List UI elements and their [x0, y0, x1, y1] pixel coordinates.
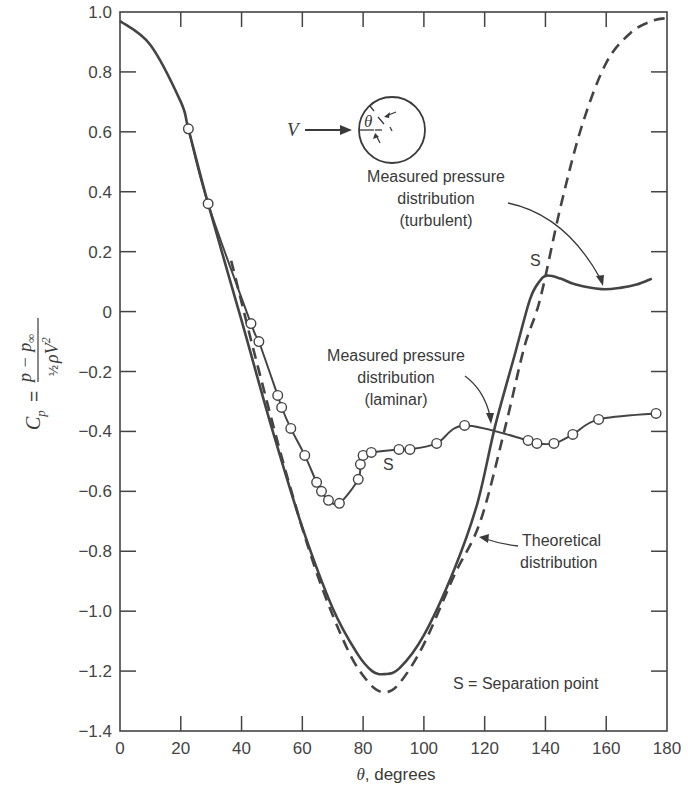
y-tick-label: −1.2 [78, 662, 112, 681]
data-point-marker [317, 487, 327, 497]
y-tick-label: −0.6 [78, 482, 112, 501]
y-tick-label: 0 [103, 303, 112, 322]
x-tick-label: 0 [115, 739, 124, 758]
pressure-distribution-chart: 1.00.80.60.40.20−0.2−0.4−0.6−0.8−1.0−1.2… [0, 0, 688, 794]
svg-text:(turbulent): (turbulent) [400, 212, 473, 229]
theta-label: θ [364, 112, 372, 131]
y-tick-label: −0.8 [78, 542, 112, 561]
data-point-marker [432, 439, 442, 449]
laminar-distribution-line [188, 129, 656, 505]
x-tick-label: 80 [354, 739, 373, 758]
svg-text:distribution: distribution [357, 369, 434, 386]
svg-text:p − p∞: p − p∞ [15, 334, 38, 384]
x-tick-label: 60 [293, 739, 312, 758]
data-point-marker [460, 421, 470, 431]
velocity-arrow-icon [340, 125, 352, 135]
data-point-marker [532, 439, 542, 449]
x-tick-label: 160 [592, 739, 620, 758]
svg-text:(laminar): (laminar) [364, 391, 427, 408]
x-axis-label: θ, degrees [356, 765, 435, 784]
data-point-marker [594, 415, 604, 425]
turbulent-separation-mark: S [530, 252, 541, 269]
svg-text:Measured pressure: Measured pressure [327, 347, 465, 364]
cylinder-inset: V θ [287, 97, 425, 163]
y-axis-label: Cp = p − p∞ ½ ρV2 [15, 318, 62, 430]
arrow-icon [479, 534, 489, 543]
data-point-marker [324, 496, 334, 506]
separation-key: S = Separation point [453, 675, 599, 692]
y-tick-label: 0.8 [88, 63, 112, 82]
svg-text:distribution: distribution [520, 554, 597, 571]
x-tick-label: 120 [470, 739, 498, 758]
data-point-marker [353, 475, 363, 485]
x-tick-label: 140 [531, 739, 559, 758]
data-point-marker [277, 403, 287, 413]
arrow-icon [486, 413, 494, 424]
y-tick-label: 0.2 [88, 243, 112, 262]
y-tick-labels: 1.00.80.60.40.20−0.2−0.4−0.6−0.8−1.0−1.2… [78, 3, 112, 741]
x-tick-labels: 020406080100120140160180 [115, 739, 681, 758]
data-point-marker [312, 478, 322, 488]
svg-text:distribution: distribution [397, 190, 474, 207]
svg-text:Cp: Cp [22, 410, 48, 430]
data-point-marker [335, 499, 345, 509]
data-point-marker [300, 451, 310, 461]
svg-text:½: ½ [46, 365, 61, 376]
data-point-marker [273, 391, 283, 401]
turbulent-label: Measured pressure distribution (turbulen… [367, 168, 604, 286]
velocity-label: V [287, 119, 301, 140]
svg-text:ρV2: ρV2 [39, 337, 62, 364]
arrow-icon [596, 275, 604, 286]
svg-text:Measured pressure: Measured pressure [367, 168, 505, 185]
data-point-marker [203, 199, 213, 209]
data-point-marker [651, 409, 661, 419]
y-tick-label: 0.4 [88, 183, 112, 202]
laminar-separation-mark: S [383, 456, 394, 473]
data-point-marker [568, 430, 578, 440]
data-point-marker [367, 448, 377, 458]
theoretical-label: Theoretical distribution [479, 532, 601, 571]
y-tick-label: 0.6 [88, 123, 112, 142]
x-tick-label: 40 [232, 739, 251, 758]
svg-text:Theoretical: Theoretical [522, 532, 601, 549]
data-point-marker [356, 460, 366, 470]
data-point-marker [394, 445, 404, 455]
data-point-marker [405, 445, 415, 455]
y-tick-label: 1.0 [88, 3, 112, 22]
data-point-marker [246, 319, 256, 329]
data-point-marker [549, 439, 559, 449]
y-tick-label: −1.4 [78, 722, 112, 741]
y-tick-label: −0.2 [78, 363, 112, 382]
data-point-marker [254, 337, 264, 347]
x-tick-label: 180 [653, 739, 681, 758]
y-tick-label: −1.0 [78, 602, 112, 621]
x-tick-label: 100 [410, 739, 438, 758]
laminar-label: Measured pressure distribution (laminar) [327, 347, 494, 424]
data-point-marker [286, 424, 296, 434]
x-tick-label: 20 [171, 739, 190, 758]
svg-text:=: = [23, 391, 44, 402]
data-point-marker [184, 124, 194, 134]
y-tick-label: −0.4 [78, 422, 112, 441]
